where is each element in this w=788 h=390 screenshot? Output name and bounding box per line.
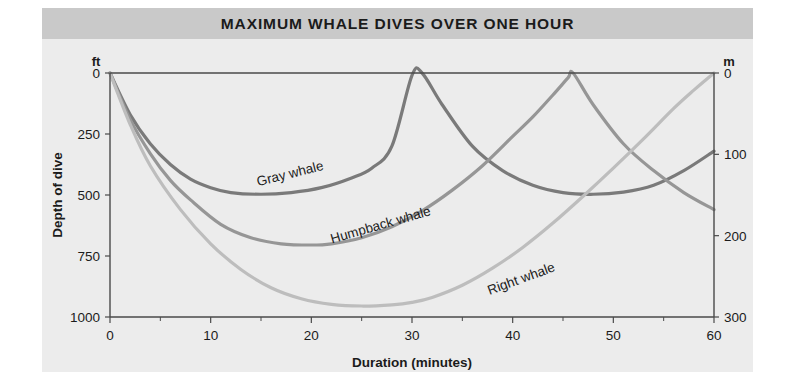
series-label-gray-whale: Gray whale: [255, 158, 325, 189]
x-tick-10: 10: [203, 328, 218, 343]
series-label-humpback-whale: Humpback whale: [329, 203, 433, 246]
chart-canvas: 0250500750100001002003000102030405060Gra…: [0, 0, 788, 390]
y-left-tick-750: 750: [77, 249, 100, 264]
series-layer: [110, 68, 714, 306]
right-axis-unit-label: m: [723, 54, 735, 69]
y-left-tick-1000: 1000: [70, 310, 100, 325]
x-tick-0: 0: [106, 328, 114, 343]
x-tick-40: 40: [505, 328, 520, 343]
y-right-tick-100: 100: [724, 147, 747, 162]
y-left-tick-250: 250: [77, 127, 100, 142]
x-tick-30: 30: [404, 328, 419, 343]
left-axis-unit-label: ft: [92, 54, 101, 69]
series-line-right-whale: [110, 73, 714, 306]
x-tick-60: 60: [706, 328, 721, 343]
x-axis-title: Duration (minutes): [352, 355, 472, 370]
y-left-tick-500: 500: [77, 188, 100, 203]
x-tick-50: 50: [606, 328, 621, 343]
series-line-gray-whale: [110, 68, 714, 194]
axes-layer: [105, 73, 719, 323]
x-tick-20: 20: [304, 328, 319, 343]
whale-dive-chart-figure: MAXIMUM WHALE DIVES OVER ONE HOUR 025050…: [0, 0, 788, 390]
y-right-tick-300: 300: [724, 310, 747, 325]
y-right-tick-200: 200: [724, 229, 747, 244]
y-axis-title: Depth of dive: [50, 152, 65, 238]
